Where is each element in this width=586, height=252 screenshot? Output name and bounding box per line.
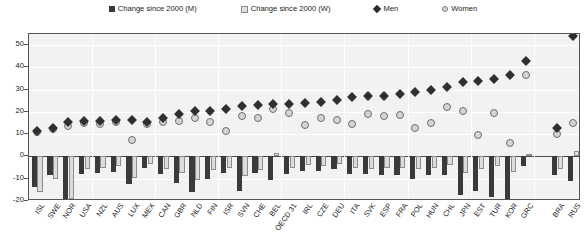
bar-m-IRL <box>300 156 305 170</box>
point-women-IRL <box>301 121 309 129</box>
x-axis-label-SWE: SWE <box>46 202 62 220</box>
bar-m-CZE <box>316 156 321 170</box>
gridline-vertical <box>471 34 472 199</box>
gridline-vertical <box>218 34 219 199</box>
bar-m-FIN <box>205 156 210 178</box>
bar-w-CHL <box>447 156 452 165</box>
point-women-CHL <box>443 103 451 111</box>
x-axis-label-MEX: MEX <box>141 202 156 219</box>
point-men-ITA <box>347 93 357 103</box>
gridline-vertical <box>92 34 93 199</box>
y-axis-tick-label: 10 <box>16 129 24 137</box>
point-men-ESP <box>379 91 389 101</box>
bar-m-JPN <box>458 156 463 195</box>
point-women-SVN <box>238 112 246 120</box>
x-axis-label-CHE: CHE <box>252 202 267 219</box>
point-women-POL <box>411 124 419 132</box>
x-axis-label-CAN: CAN <box>157 202 172 219</box>
point-women-FIN <box>206 118 214 126</box>
bar-w-ISL <box>37 156 42 192</box>
bar-w-HUN <box>432 156 437 167</box>
x-axis-label-RUS: RUS <box>567 202 582 219</box>
y-axis-tick-label: -20 <box>13 196 24 204</box>
bar-w-USA <box>85 156 90 168</box>
gridline-vertical <box>281 34 282 199</box>
point-women-GRC <box>522 71 530 79</box>
bar-m-POL <box>410 156 415 178</box>
chart-root: Change since 2000 (M)Change since 2000 (… <box>0 0 586 252</box>
bar-m-GRC <box>521 156 526 166</box>
gridline-vertical <box>408 34 409 199</box>
y-axis-tick-label: 30 <box>16 85 24 93</box>
point-women-TUR <box>490 109 498 117</box>
bar-m-NOR <box>63 156 68 199</box>
bar-w-JPN <box>463 156 468 173</box>
x-axis-label-NLD: NLD <box>189 202 204 218</box>
legend-item-3[interactable]: Women <box>442 5 477 13</box>
point-women-CZE <box>317 114 325 122</box>
legend-item-2[interactable]: Men <box>374 5 398 13</box>
gridline-vertical <box>534 34 535 199</box>
point-men-CHE <box>253 100 263 110</box>
plot-area <box>28 33 580 200</box>
point-men-EST <box>474 76 484 86</box>
x-axis-label-DEU: DEU <box>331 202 346 219</box>
x-axis-label-ESP: ESP <box>378 202 393 218</box>
y-axis: -20-1001020304050 <box>0 33 28 200</box>
bar-m-LUX <box>126 156 131 184</box>
x-axis-label-AUS: AUS <box>110 202 125 219</box>
x-axis-label-CHL: CHL <box>441 202 456 218</box>
bar-m-ISR <box>221 156 226 173</box>
bar-w-FRA <box>400 156 405 167</box>
point-men-FIN <box>205 106 215 116</box>
bar-w-CHE <box>258 156 263 169</box>
x-axis-label-EST: EST <box>473 202 487 218</box>
point-men-SVK <box>363 91 373 101</box>
y-axis-tick-label: 40 <box>16 63 24 71</box>
point-men-DEU <box>332 95 342 105</box>
gridline-horizontal <box>29 134 579 135</box>
bar-m-ESP <box>379 156 384 175</box>
legend-item-1[interactable]: Change since 2000 (W) <box>241 5 331 13</box>
bar-w-NOR <box>69 156 74 198</box>
legend-item-0[interactable]: Change since 2000 (M) <box>109 5 197 13</box>
x-axis-label-TUR: TUR <box>489 202 504 219</box>
bar-w-CZE <box>321 156 326 166</box>
point-women-SVK <box>364 110 372 118</box>
bar-w-DEU <box>337 156 342 164</box>
bar-m-SVN <box>237 156 242 191</box>
bar-m-CAN <box>158 156 163 174</box>
point-women-KOR <box>506 139 514 147</box>
x-axis-label-LUX: LUX <box>126 202 140 218</box>
x-axis-label-GBR: GBR <box>173 202 188 219</box>
bar-w-BEL <box>274 153 279 156</box>
chart-legend: Change since 2000 (M)Change since 2000 (… <box>0 0 586 18</box>
point-women-FRA <box>396 111 404 119</box>
point-women-JPN <box>459 107 467 115</box>
bar-w-CAN <box>164 156 169 168</box>
point-men-IRL <box>300 98 310 108</box>
point-men-GRC <box>521 56 531 66</box>
bar-w-SWE <box>53 156 58 178</box>
gridline-vertical <box>155 34 156 199</box>
bar-m-AUS <box>111 156 116 172</box>
bar-m-NZL <box>95 156 100 173</box>
x-axis-label-IRL: IRL <box>301 202 314 216</box>
point-women-RUS <box>569 119 577 127</box>
y-axis-tick-label: 20 <box>16 107 24 115</box>
gridline-vertical <box>344 34 345 199</box>
bar-w-OECD-31 <box>290 156 295 167</box>
point-men-CZE <box>316 97 326 107</box>
x-axis-label-NOR: NOR <box>62 202 77 220</box>
x-axis-label-KOR: KOR <box>504 202 519 219</box>
point-men-LUX <box>127 115 137 125</box>
bar-w-GBR <box>179 156 184 173</box>
bar-w-AUS <box>116 156 121 166</box>
bar-w-FIN <box>211 156 216 169</box>
legend-item-label: Change since 2000 (W) <box>251 5 331 13</box>
bar-m-ITA <box>347 156 352 174</box>
point-women-CHE <box>254 114 262 122</box>
bar-w-TUR <box>495 156 500 166</box>
bar-w-GRC <box>526 154 531 156</box>
bar-m-HUN <box>426 156 431 175</box>
